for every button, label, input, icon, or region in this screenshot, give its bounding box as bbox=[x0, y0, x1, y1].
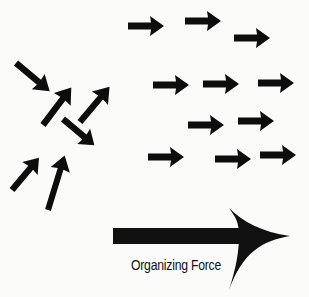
organizing-force-label: Organizing Force bbox=[131, 256, 221, 273]
organizing-force-arrow-shaft bbox=[113, 228, 243, 244]
diagram-canvas: Organizing Force bbox=[0, 0, 309, 297]
diagram-background bbox=[0, 0, 309, 297]
arrows-diagram: Organizing Force bbox=[0, 0, 309, 297]
